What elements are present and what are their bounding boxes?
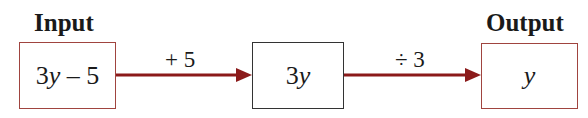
operation-add-5: + 5 [165,48,195,71]
operation-divide-3: ÷ 3 [395,48,425,71]
arrowhead-1 [236,68,252,82]
arrowhead-2 [465,68,481,82]
arrows [0,0,588,118]
